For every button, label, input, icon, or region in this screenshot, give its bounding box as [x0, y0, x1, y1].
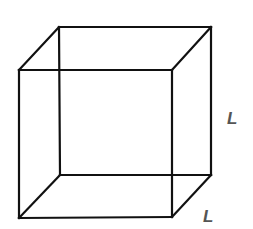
- top-right-connector: [172, 27, 211, 70]
- top-left-connector: [19, 27, 59, 70]
- back-left-edge: [59, 27, 60, 175]
- height-label: L: [227, 109, 237, 128]
- front-bottom-edge: [19, 217, 172, 218]
- depth-label: L: [203, 207, 213, 226]
- cube-diagram: L L: [0, 0, 253, 229]
- bottom-left-connector: [19, 175, 60, 218]
